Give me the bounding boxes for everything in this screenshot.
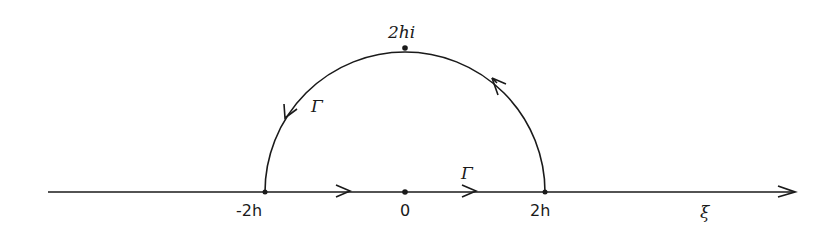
point-plus-2h [543, 190, 548, 195]
label-xi: ξ [700, 202, 711, 222]
label-gamma-axis: Γ [460, 163, 474, 183]
label-plus-2h: 2h [530, 201, 550, 220]
label-minus-2h: -2h [236, 201, 262, 220]
axis-direction-arrow-icon [336, 185, 350, 197]
semicircle-arc [265, 52, 545, 192]
point-top [402, 45, 408, 51]
point-minus-2h [263, 190, 268, 195]
axis-direction-arrow-icon [462, 185, 476, 197]
point-origin [402, 189, 408, 195]
label-2hi: 2hi [387, 22, 415, 42]
label-origin: 0 [400, 201, 410, 220]
contour-diagram: 2hi -2h 0 2h ξ Γ Γ [0, 0, 835, 241]
label-gamma-arc: Γ [310, 96, 324, 116]
